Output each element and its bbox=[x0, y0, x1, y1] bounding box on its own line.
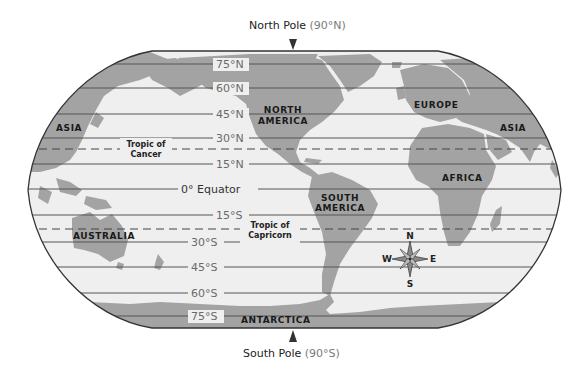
compass-e: E bbox=[430, 254, 436, 264]
lat-label-75s: 75°S bbox=[191, 310, 217, 323]
north-pole-coord: (90°N) bbox=[310, 19, 346, 32]
lat-label-60n: 60°N bbox=[216, 82, 244, 95]
continent-label-asia-east: ASIA bbox=[500, 123, 526, 133]
tropic-cancer-label-2: Cancer bbox=[130, 150, 161, 159]
south-pole-label: South Pole (90°S) bbox=[243, 347, 340, 360]
north-pole-label: North Pole (90°N) bbox=[249, 19, 346, 32]
continent-label-antarctica: ANTARCTICA bbox=[241, 315, 311, 325]
lat-label-30s: 30°S bbox=[191, 236, 217, 249]
compass-n: N bbox=[406, 231, 414, 241]
continent-label-north-america-2: AMERICA bbox=[258, 116, 308, 126]
south-pole-coord: (90°S) bbox=[305, 347, 340, 360]
continent-label-asia-west: ASIA bbox=[56, 123, 82, 133]
lat-label-equator: 0° Equator bbox=[181, 183, 241, 196]
tropic-capricorn-label-1: Tropic of bbox=[251, 221, 291, 230]
continent-label-africa: AFRICA bbox=[442, 173, 483, 183]
continent-label-australia: AUSTRALIA bbox=[73, 231, 135, 241]
continent-label-europe: EUROPE bbox=[414, 100, 458, 110]
lat-label-60s: 60°S bbox=[191, 287, 217, 300]
lat-label-45n: 45°N bbox=[216, 108, 244, 121]
map-svg: 75°N 60°N 45°N 30°N 15°N 0° Equator 15°S… bbox=[0, 0, 583, 375]
south-pole-name: South Pole bbox=[243, 347, 301, 360]
lat-label-15n: 15°N bbox=[216, 158, 244, 171]
lat-label-30n: 30°N bbox=[216, 132, 244, 145]
continent-label-south-america-1: SOUTH bbox=[321, 193, 359, 203]
compass-w: W bbox=[382, 254, 392, 264]
lat-label-15s: 15°S bbox=[216, 209, 242, 222]
lat-label-75n: 75°N bbox=[216, 58, 244, 71]
north-pole-name: North Pole bbox=[249, 19, 306, 32]
tropic-capricorn-label-2: Capricorn bbox=[248, 231, 292, 240]
compass-s: S bbox=[407, 279, 413, 289]
continent-label-north-america-1: NORTH bbox=[264, 105, 302, 115]
lat-label-45s: 45°S bbox=[191, 261, 217, 274]
south-pole-marker-icon bbox=[289, 330, 297, 342]
world-map: North Pole (90°N) South Pole (90°S) bbox=[0, 0, 583, 375]
tropic-cancer-label-1: Tropic of bbox=[127, 140, 167, 149]
continent-label-south-america-2: AMERICA bbox=[315, 203, 365, 213]
north-pole-marker-icon bbox=[289, 39, 297, 50]
